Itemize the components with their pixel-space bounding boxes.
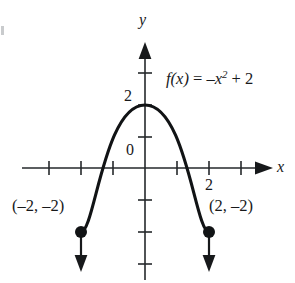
x-axis-arrowhead <box>255 162 273 175</box>
function-rhs-lead: –x <box>206 69 222 88</box>
left-endpoint-dot <box>75 226 87 238</box>
y-axis-label: y <box>139 12 146 28</box>
right-point-label: (2, –2) <box>209 198 253 215</box>
left-ray-arrowhead <box>75 255 88 272</box>
left-point-label: (–2, –2) <box>12 198 64 215</box>
graph-figure: y x 0 2 2 (–2, –2) (2, –2) f(x) = –x2 + … <box>0 0 295 283</box>
y-axis-arrowhead <box>139 42 152 59</box>
function-equals-sign: = <box>193 69 202 88</box>
x-axis-label: x <box>277 159 284 175</box>
right-ray-arrowhead <box>203 255 216 272</box>
y-tick-label-2: 2 <box>124 88 132 104</box>
function-equation-label: f(x) = –x2 + 2 <box>166 71 253 88</box>
x-tick-label-2: 2 <box>205 177 213 193</box>
function-rhs-tail: + 2 <box>232 69 254 88</box>
coordinate-plane-svg <box>0 0 295 283</box>
function-lhs: f(x) <box>166 69 189 88</box>
right-endpoint-dot <box>203 226 215 238</box>
origin-label: 0 <box>126 142 134 158</box>
